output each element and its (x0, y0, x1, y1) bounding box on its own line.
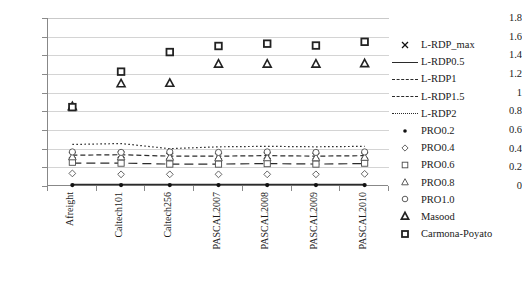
x-tick-mark (339, 186, 340, 191)
legend-item[interactable]: PRO0.4 (392, 139, 520, 156)
legend-marker (398, 210, 412, 222)
gridline (48, 37, 389, 38)
data-point (69, 159, 75, 165)
legend-line (392, 79, 418, 80)
data-point (264, 149, 270, 155)
legend-marker (398, 193, 412, 205)
gridline (48, 167, 389, 168)
legend-item[interactable]: PRO0.8 (392, 174, 520, 191)
data-point (117, 153, 125, 160)
legend-marker (398, 39, 412, 51)
series-layer (48, 18, 389, 186)
gridline (48, 111, 389, 112)
legend-marker (398, 125, 412, 137)
legend-marker (398, 159, 412, 171)
data-point (215, 43, 222, 50)
legend-item[interactable]: PRO0.6 (392, 156, 520, 173)
legend-item[interactable]: Carmona-Poyato (392, 225, 520, 242)
data-point (166, 153, 173, 160)
legend-line (392, 96, 418, 97)
gridline (48, 74, 389, 75)
x-tick-label-text: Caltech256 (163, 192, 173, 284)
gridline (48, 18, 389, 19)
data-point (166, 171, 173, 178)
legend-key-open-diamond-icon (392, 142, 418, 154)
legend-item[interactable]: PRO0.2 (392, 122, 520, 139)
legend-glyph (402, 42, 408, 48)
data-point (361, 170, 368, 177)
legend-item-label: PRO0.8 (421, 177, 455, 188)
legend-glyph (401, 213, 408, 220)
data-point (363, 183, 367, 187)
data-point (263, 60, 271, 67)
data-point (215, 60, 223, 67)
data-point (313, 153, 320, 160)
legend-marker (398, 176, 412, 188)
legend-key-dashdot-line-icon (392, 90, 418, 102)
x-tick-mark (388, 186, 389, 191)
data-point (215, 154, 223, 161)
data-point (69, 149, 75, 155)
data-point (167, 149, 173, 155)
data-point (263, 154, 271, 161)
legend-item[interactable]: Masood (392, 208, 520, 225)
data-point (168, 183, 172, 187)
data-point (361, 153, 369, 160)
legend-item-label: L-RDP1 (421, 73, 457, 84)
chart-legend: L-RDP_maxL-RDP0.5L-RDP1L-RDP1.5L-RDP2PRO… (392, 36, 520, 242)
data-point (68, 102, 76, 109)
data-point (215, 171, 222, 178)
data-point (264, 171, 271, 178)
legend-item[interactable]: L-RDP2 (392, 105, 520, 122)
data-point (70, 183, 74, 187)
legend-key-filled-dot-icon (392, 125, 418, 137)
x-tick-mark (47, 186, 48, 191)
legend-glyph (402, 196, 408, 202)
gridline (48, 93, 389, 94)
data-point (215, 153, 222, 160)
legend-glyph (402, 231, 408, 237)
legend-item-label: L-RDP1.5 (421, 91, 464, 102)
x-tick-label-text: Afreight (65, 192, 75, 284)
legend-glyph (402, 162, 408, 168)
gridline (48, 149, 389, 150)
legend-key-open-square-icon (392, 159, 418, 171)
data-point (264, 40, 271, 47)
legend-item-label: Carmona-Poyato (421, 228, 492, 239)
x-tick-label-text: PASCAL2010 (358, 192, 368, 284)
data-point (362, 160, 368, 166)
legend-key-solid-line-icon (392, 56, 418, 68)
data-point (362, 149, 368, 155)
legend-item-label: L-RDP_max (421, 39, 475, 50)
plot-area (47, 18, 388, 186)
data-point (69, 104, 76, 111)
data-point (361, 152, 368, 159)
x-tick-label-text: PASCAL2008 (260, 192, 270, 284)
data-point (118, 149, 124, 155)
series-line (72, 163, 364, 164)
series-line (72, 155, 364, 156)
data-point (314, 183, 318, 187)
gridline (48, 130, 389, 131)
x-tick-mark (96, 186, 97, 191)
data-point (166, 79, 174, 86)
legend-item[interactable]: L-RDP0.5 (392, 53, 520, 70)
data-point (313, 161, 319, 167)
data-point (117, 79, 125, 86)
legend-item[interactable]: L-RDP1.5 (392, 88, 520, 105)
legend-glyph (403, 129, 407, 133)
legend-item[interactable]: L-RDP1 (392, 70, 520, 87)
legend-item[interactable]: L-RDP_max (392, 36, 520, 53)
legend-key-filled-square-icon (392, 228, 418, 240)
data-point (119, 183, 123, 187)
legend-key-x-cross-icon (392, 39, 418, 51)
legend-item-label: L-RDP0.5 (421, 56, 464, 67)
data-point (264, 161, 270, 167)
data-point (166, 153, 174, 160)
legend-line (392, 113, 418, 114)
legend-key-filled-triangle-icon (392, 210, 418, 222)
data-point (69, 170, 76, 177)
x-tick-mark (291, 186, 292, 191)
x-tick-label-text: PASCAL2009 (309, 192, 319, 284)
legend-item[interactable]: PRO1.0 (392, 191, 520, 208)
